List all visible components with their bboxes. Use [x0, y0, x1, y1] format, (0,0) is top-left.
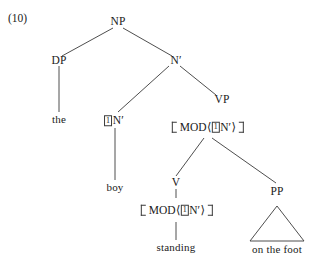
pp-triangle	[250, 206, 304, 241]
branch-nbar-vp	[180, 66, 216, 95]
v-matrix-body: MOD⟨1N′⟩	[146, 204, 208, 216]
vp-mod-close-angle: ⟩	[231, 120, 236, 132]
node-pp: PP	[270, 186, 283, 198]
node-indexed-nbar-label: N′	[113, 114, 124, 126]
vp-mod-feature-name: MOD	[180, 120, 207, 132]
syntax-tree-diagram: (10) NP DP N′ the 1N′	[0, 0, 336, 271]
terminal-standing: standing	[157, 242, 196, 253]
branch-np-dp	[62, 28, 113, 56]
node-vp-label: VP	[214, 93, 229, 105]
terminal-the: the	[52, 114, 66, 125]
node-v: V	[172, 177, 181, 189]
v-mod-value: N′	[189, 203, 200, 215]
node-np: NP	[110, 16, 125, 28]
vp-matrix-right-bracket	[239, 121, 244, 133]
vp-mod-feature-matrix: MOD⟨1N′⟩	[172, 118, 244, 137]
node-dp: DP	[51, 55, 66, 67]
terminal-the-label: the	[52, 113, 66, 125]
terminal-on-the-foot-label: on the foot	[252, 243, 302, 255]
branch-vp-v	[176, 138, 204, 176]
v-matrix-right-bracket	[208, 204, 213, 216]
v-mod-feature-matrix: MOD⟨1N′⟩	[141, 201, 213, 220]
node-nbar-top-label: N′	[170, 54, 181, 66]
tree-branch-lines	[0, 0, 336, 271]
terminal-standing-label: standing	[157, 241, 196, 253]
vp-mod-index-box: 1	[212, 121, 220, 132]
node-indexed-nbar: 1N′	[104, 115, 124, 127]
branch-np-nbar	[123, 28, 172, 56]
node-dp-label: DP	[51, 54, 66, 66]
vp-mod-value: N′	[220, 120, 231, 132]
v-mod-close-angle: ⟩	[200, 203, 205, 215]
branch-vp-pp	[212, 138, 276, 183]
index-box-1: 1	[104, 115, 112, 126]
node-vp: VP	[214, 94, 229, 106]
terminal-boy-label: boy	[106, 181, 123, 193]
terminal-boy: boy	[106, 182, 123, 193]
v-mod-index-box: 1	[181, 204, 189, 215]
vp-matrix-body: MOD⟨1N′⟩	[177, 121, 239, 133]
branch-nbar-indexed-nbar	[118, 66, 169, 112]
node-v-label: V	[172, 176, 181, 188]
node-pp-label: PP	[270, 185, 283, 197]
node-nbar-top: N′	[170, 55, 181, 67]
v-mod-feature-name: MOD	[149, 203, 176, 215]
terminal-on-the-foot: on the foot	[252, 244, 302, 255]
node-np-label: NP	[110, 15, 125, 27]
